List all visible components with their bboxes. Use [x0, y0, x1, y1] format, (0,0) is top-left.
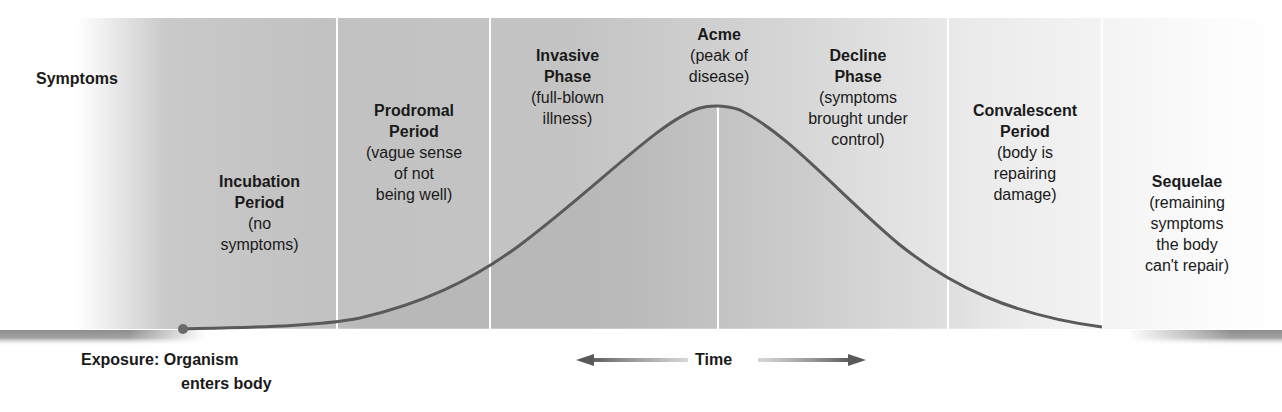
- stage-title: Invasive: [500, 45, 635, 66]
- stage-description: the body: [1112, 234, 1262, 255]
- stage-description: (symptoms: [792, 87, 924, 108]
- stage-description: can't repair): [1112, 255, 1262, 276]
- stage-title: Phase: [792, 66, 924, 87]
- time-arrow-left-shaft: [590, 358, 688, 362]
- stage-title: Decline: [792, 45, 924, 66]
- stage-description: brought under: [792, 108, 924, 129]
- stage-description: (full-blown: [500, 87, 635, 108]
- stage-title: Period: [182, 192, 337, 213]
- time-arrow-right-shaft: [758, 358, 850, 362]
- time-arrow-left-head: [576, 354, 594, 366]
- stage-incubation-period: Incubation Period (no symptoms): [182, 171, 337, 255]
- x-axis-label: Time: [695, 349, 732, 370]
- stage-prodromal-period: Prodromal Period (vague sense of not bei…: [340, 100, 488, 205]
- stage-title: Phase: [500, 66, 635, 87]
- stage-sequelae: Sequelae (remaining symptoms the body ca…: [1112, 171, 1262, 276]
- stage-description: symptoms: [1112, 213, 1262, 234]
- stage-description: disease): [660, 66, 778, 87]
- stage-description: (body is: [950, 142, 1100, 163]
- stage-title: Acme: [660, 24, 778, 45]
- stage-description: (peak of: [660, 45, 778, 66]
- stage-convalescent-period: Convalescent Period (body is repairing d…: [950, 100, 1100, 205]
- stage-invasive-phase: Invasive Phase (full-blown illness): [500, 45, 635, 129]
- stage-description: being well): [340, 184, 488, 205]
- stage-title: Prodromal: [340, 100, 488, 121]
- stage-title: Period: [950, 121, 1100, 142]
- exposure-label-line2: enters body: [181, 373, 272, 394]
- stage-description: illness): [500, 108, 635, 129]
- exposure-point: [178, 324, 188, 334]
- time-arrow-right-head: [848, 354, 866, 366]
- stage-description: repairing: [950, 163, 1100, 184]
- exposure-label-line1: Exposure: Organism: [81, 349, 238, 370]
- stage-title: Period: [340, 121, 488, 142]
- y-axis-label: Symptoms: [36, 68, 118, 89]
- stage-description: of not: [340, 163, 488, 184]
- stage-title: Convalescent: [950, 100, 1100, 121]
- stage-description: damage): [950, 184, 1100, 205]
- stage-acme: Acme (peak of disease): [660, 24, 778, 87]
- stage-decline-phase: Decline Phase (symptoms brought under co…: [792, 45, 924, 150]
- stage-description: (vague sense: [340, 142, 488, 163]
- stage-title: Incubation: [182, 171, 337, 192]
- stage-description: symptoms): [182, 234, 337, 255]
- stage-description: control): [792, 129, 924, 150]
- stage-description: (remaining: [1112, 192, 1262, 213]
- stage-title: Sequelae: [1112, 171, 1262, 192]
- time-axis-band: [0, 330, 1282, 346]
- stage-description: (no: [182, 213, 337, 234]
